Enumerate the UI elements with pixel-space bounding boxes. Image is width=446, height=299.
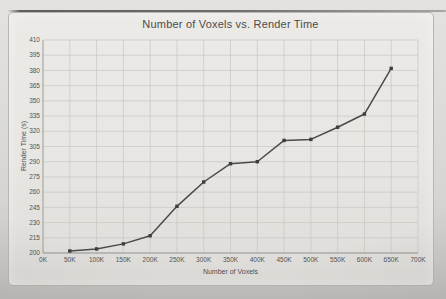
y-tick-label: 200	[29, 249, 40, 256]
data-point-marker	[282, 139, 285, 142]
y-tick-label: 335	[29, 112, 40, 119]
y-tick-label: 245	[29, 204, 40, 211]
y-axis-title: Render Time (s)	[20, 121, 27, 171]
x-tick-label: 500K	[303, 256, 319, 263]
x-tick-label: 600K	[357, 256, 373, 263]
data-point-marker	[202, 180, 205, 183]
y-tick-label: 380	[29, 67, 40, 74]
data-point-marker	[175, 205, 178, 208]
x-tick-label: 0K	[39, 256, 48, 263]
x-tick-label: 200K	[143, 256, 159, 263]
y-tick-label: 395	[29, 51, 40, 58]
x-tick-label: 400K	[250, 256, 266, 263]
chart-title: Number of Voxels vs. Render Time	[43, 18, 418, 30]
y-tick-label: 365	[29, 82, 40, 89]
x-tick-label: 150K	[116, 256, 132, 263]
data-point-marker	[256, 160, 259, 163]
x-tick-label: 550K	[330, 256, 346, 263]
data-point-marker	[336, 126, 339, 129]
x-tick-label: 250K	[169, 256, 185, 263]
data-point-marker	[309, 138, 312, 141]
data-point-marker	[95, 247, 98, 250]
x-tick-label: 300K	[196, 256, 212, 263]
x-tick-label: 450K	[276, 256, 292, 263]
y-tick-label: 305	[29, 143, 40, 150]
x-tick-label: 700K	[410, 256, 426, 263]
y-tick-label: 260	[29, 188, 40, 195]
x-tick-label: 50K	[64, 256, 76, 263]
x-axis-title: Number of Voxels	[43, 268, 418, 275]
photographed-page: 0K50K100K150K200K250K300K350K400K450K500…	[0, 0, 446, 299]
data-point-marker	[390, 67, 393, 70]
y-tick-label: 230	[29, 219, 40, 226]
y-tick-label: 215	[29, 234, 40, 241]
data-point-marker	[122, 242, 125, 245]
y-tick-label: 320	[29, 127, 40, 134]
y-tick-label: 350	[29, 97, 40, 104]
y-tick-label: 275	[29, 173, 40, 180]
line-chart: 0K50K100K150K200K250K300K350K400K450K500…	[0, 0, 446, 299]
data-point-marker	[363, 112, 366, 115]
y-tick-label: 290	[29, 158, 40, 165]
x-tick-label: 350K	[223, 256, 239, 263]
data-point-marker	[229, 162, 232, 165]
data-point-marker	[68, 249, 71, 252]
y-tick-label: 410	[29, 36, 40, 43]
x-tick-label: 100K	[89, 256, 105, 263]
x-tick-label: 650K	[384, 256, 400, 263]
data-point-marker	[148, 234, 151, 237]
